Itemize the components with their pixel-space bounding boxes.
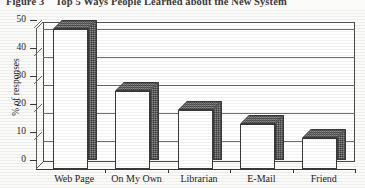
figure-caption: Figure 3Top 5 Ways People Learned about … [6, 0, 287, 7]
figure-title: Top 5 Ways People Learned about the New … [55, 0, 287, 7]
x-axis-label-friend: Friend [293, 173, 355, 184]
bar-side-face [213, 101, 222, 160]
bar-web-page [53, 20, 88, 169]
figure-number: Figure 3 [6, 0, 44, 7]
bar-side-face [150, 82, 159, 160]
bar-chart: 50403020100 % of responses Web PageOn My… [0, 8, 365, 188]
x-axis-label-librarian: Librarian [168, 173, 230, 184]
x-axis-label-on-my-own: On My Own [105, 173, 167, 184]
bar-series [0, 8, 365, 188]
x-axis-labels: Web PageOn My OwnLibrarianE-MailFriend [0, 173, 365, 188]
x-axis-label-web-page: Web Page [43, 173, 105, 184]
bar-on-my-own [115, 82, 150, 169]
bar-librarian [178, 101, 213, 169]
bar-front-face [240, 124, 275, 169]
bar-friend [302, 129, 337, 169]
bar-front-face [302, 138, 337, 169]
bar-front-face [115, 91, 150, 169]
bar-e-mail [240, 115, 275, 169]
x-axis-label-e-mail: E-Mail [230, 173, 292, 184]
bar-side-face [88, 20, 97, 160]
bar-front-face [178, 110, 213, 169]
bar-front-face [53, 29, 88, 169]
